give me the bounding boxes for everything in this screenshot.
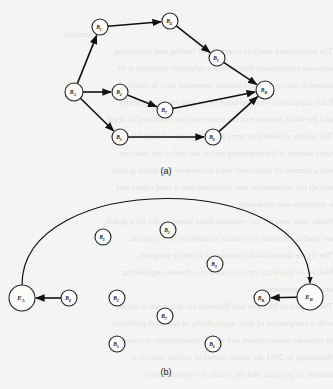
- edge-arrow: [80, 98, 113, 130]
- node-ea: EA: [9, 285, 35, 311]
- node-b3: B3: [109, 336, 125, 352]
- figure-b-caption: (b): [161, 367, 172, 377]
- node-b3a: B3: [207, 256, 223, 272]
- edge-arrow: [127, 95, 156, 107]
- node-b4: B4: [162, 13, 178, 29]
- node-b7: B7: [157, 102, 173, 118]
- figure-a-edges: [77, 22, 257, 137]
- node-b6: B6: [205, 336, 221, 352]
- node-b6: B6: [205, 129, 221, 145]
- node-bb: BB: [254, 290, 270, 306]
- block-graph-figure: B1B4B5BAB2B7BBB3B6 EAB4B2B1B5B3B7B3B6BBE…: [0, 0, 333, 389]
- node-ba: BA: [65, 83, 83, 101]
- node-eb: EB: [297, 284, 323, 310]
- edge-arrow: [173, 92, 255, 108]
- node-b1: B1: [92, 19, 108, 35]
- edge-arrow: [108, 22, 161, 27]
- edge-arrow: [77, 35, 96, 83]
- node-b1: B1: [95, 229, 111, 245]
- node-b5: B5: [160, 222, 176, 238]
- figure-b-nodes: EAB4B2B1B5B3B7B3B6BBEB: [9, 222, 323, 352]
- figure-a-caption: (a): [161, 166, 172, 176]
- node-b4: B4: [61, 290, 77, 306]
- node-b2: B2: [112, 84, 128, 100]
- node-b2: B2: [109, 290, 125, 306]
- figure-a-nodes: B1B4B5BAB2B7BBB3B6: [65, 13, 274, 145]
- edge-arrow: [224, 62, 257, 84]
- node-b7: B7: [157, 308, 173, 324]
- node-bb: BB: [256, 81, 274, 99]
- edge-arrow: [219, 97, 258, 132]
- edge-arrow: [176, 26, 210, 52]
- figure-b-edges: [22, 198, 310, 298]
- node-b5: B5: [209, 50, 225, 66]
- edge-arrow: [271, 297, 297, 298]
- node-b3: B3: [112, 129, 128, 145]
- arc-edge: [22, 198, 310, 285]
